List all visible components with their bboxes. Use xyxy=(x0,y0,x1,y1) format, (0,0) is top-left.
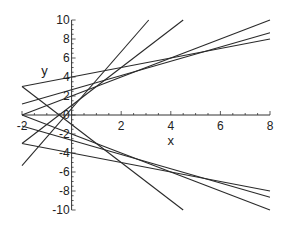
y-tick-label: 4 xyxy=(63,70,70,84)
y-tick-label: 8 xyxy=(63,32,70,46)
series-line-2 xyxy=(22,20,270,115)
y-tick-label: -8 xyxy=(59,184,70,198)
y-tick-label: -6 xyxy=(59,165,70,179)
series-line-4 xyxy=(22,39,270,87)
x-axis-label: x xyxy=(168,133,175,148)
chart: -22468-10-8-6-4-20246810 x y xyxy=(0,0,289,227)
x-tick-label: 8 xyxy=(267,119,274,133)
y-tick-label: 0 xyxy=(63,108,70,122)
x-tick-label: 6 xyxy=(217,119,224,133)
y-axis-label: y xyxy=(41,63,48,78)
x-tick-label: -2 xyxy=(17,119,28,133)
y-tick-label: 2 xyxy=(63,89,70,103)
y-tick-label: 10 xyxy=(56,13,70,27)
y-tick-label: -10 xyxy=(52,203,70,217)
series-line-3 xyxy=(22,33,270,104)
x-tick-label: 2 xyxy=(118,119,125,133)
y-tick-label: -4 xyxy=(59,146,70,160)
y-tick-label: 6 xyxy=(63,51,70,65)
y-tick-label: -2 xyxy=(59,127,70,141)
x-tick-label: 4 xyxy=(167,119,174,133)
